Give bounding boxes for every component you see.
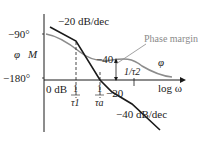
phase-axis-label: φ	[14, 48, 20, 60]
slope-middle-label: −40	[96, 53, 114, 65]
zero-db-label: 0 dB	[46, 83, 67, 95]
y-tick-minus90: −90°	[8, 28, 30, 40]
magnitude-axis-label: M	[27, 48, 38, 60]
taua-den: τa	[95, 97, 104, 108]
x-axis-label: log ω	[158, 82, 182, 94]
bode-diagram: −90° −180° φ M −20 dB/dec −40 −20 −40 dB…	[0, 0, 204, 144]
slope-top-label: −20 dB/dec	[58, 15, 109, 27]
tau1-den: τ1	[71, 97, 80, 108]
tau2-label: 1/τ2	[124, 66, 140, 77]
phase-margin-leader	[116, 44, 146, 64]
slope-lower-label: −20	[106, 87, 124, 99]
taua-num: 1	[97, 83, 102, 94]
y-tick-minus180: −180°	[3, 72, 30, 84]
phase-curve-label: φ	[158, 56, 164, 68]
phase-margin-label: Phase margin	[144, 33, 198, 44]
tau1-num: 1	[73, 83, 78, 94]
slope-bottom-label: −40 dB/dec	[116, 108, 167, 120]
